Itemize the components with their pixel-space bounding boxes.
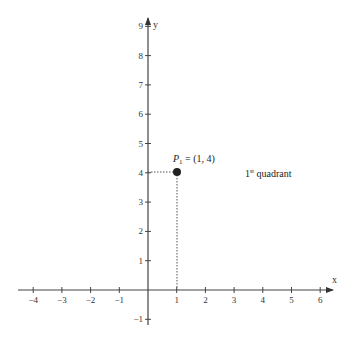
y-tick-label: 4	[139, 168, 144, 178]
x-tick-label: 3	[232, 295, 237, 305]
x-tick-label: −3	[57, 295, 67, 305]
x-tick-label: −2	[86, 295, 96, 305]
x-tick-label: 2	[203, 295, 208, 305]
x-tick-label: −4	[28, 295, 38, 305]
y-axis-label: y	[153, 19, 158, 30]
x-tick-label: 1	[174, 295, 179, 305]
y-tick-label: 9	[139, 21, 144, 31]
x-tick-label: 4	[261, 295, 266, 305]
y-tick-label: 1	[139, 256, 144, 266]
y-tick-label: 5	[139, 139, 144, 149]
y-tick-label: 7	[139, 80, 144, 90]
x-tick-label: 5	[289, 295, 294, 305]
x-tick-label: −1	[115, 295, 125, 305]
y-tick-label: 3	[139, 197, 144, 207]
point-p1-label: P1 = (1, 4)	[172, 153, 215, 166]
y-tick-label: −1	[133, 314, 143, 324]
x-axis-label: x	[332, 274, 337, 285]
quadrant-label: 1st quadrant	[245, 168, 292, 179]
y-tick-label: 6	[139, 109, 144, 119]
coordinate-plane: −4−3−2−1123456 −1123456789 x y P1 = (1, …	[0, 0, 349, 341]
y-tick-label: 2	[139, 226, 144, 236]
point-p1	[173, 168, 181, 176]
y-tick-label: 8	[139, 51, 144, 61]
x-tick-label: 6	[318, 295, 323, 305]
